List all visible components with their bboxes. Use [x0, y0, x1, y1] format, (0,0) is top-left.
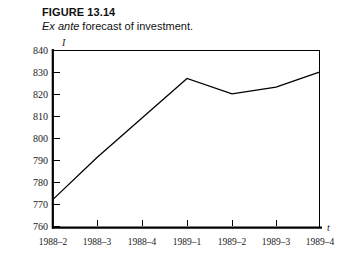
x-tick-label-1988-3: 1988–3	[83, 237, 112, 247]
figure-container: FIGURE 13.14 Ex ante forecast of investm…	[0, 0, 344, 262]
y-tick-label-840: 840	[33, 45, 48, 56]
x-tick-label-1989-2: 1989–2	[218, 237, 247, 247]
x-tick-label-1988-2: 1988–2	[39, 237, 68, 247]
x-tick-label-1989-4: 1989–4	[306, 237, 335, 247]
x-axis-symbol-label: t	[327, 222, 330, 233]
x-tick-label-1989-1: 1989–1	[173, 237, 202, 247]
plot-background	[52, 50, 320, 228]
x-tick-label-1989-3: 1989–3	[262, 237, 291, 247]
chart-svg: 840 830 820 810 800 790 780 770 760 198	[0, 0, 344, 262]
x-tick-label-1988-4: 1988–4	[128, 237, 157, 247]
y-tick-label-780: 780	[33, 177, 48, 188]
y-tick-label-760: 760	[33, 221, 48, 232]
x-axis-tick-labels: 1988–2 1988–3 1988–4 1989–1 1989–2 1989–…	[39, 237, 335, 247]
y-tick-label-810: 810	[33, 111, 48, 122]
y-tick-label-770: 770	[33, 199, 48, 210]
y-tick-label-830: 830	[33, 67, 48, 78]
line-chart-plot: 840 830 820 810 800 790 780 770 760 198	[0, 0, 344, 262]
chart-frame	[52, 49, 322, 229]
y-axis-symbol-label: I	[61, 37, 66, 48]
y-tick-label-790: 790	[33, 155, 48, 166]
y-axis-tick-labels: 840 830 820 810 800 790 780 770 760	[33, 45, 48, 232]
y-tick-label-800: 800	[33, 133, 48, 144]
y-tick-label-820: 820	[33, 89, 48, 100]
